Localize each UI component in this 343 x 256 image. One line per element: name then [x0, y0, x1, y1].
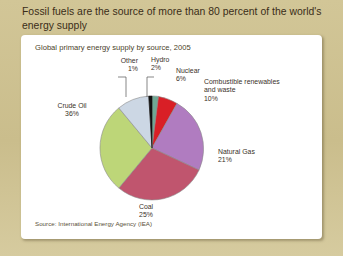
pie-label-other: Other 1% — [98, 57, 138, 74]
figure-root: Fossil fuels are the source of more than… — [0, 0, 343, 256]
pie-label-combustible-renewables: Combustible renewables and waste 10% — [204, 78, 290, 103]
pie-label-crude-oil: Crude Oil 36% — [43, 102, 101, 119]
chart-card: Global primary energy supply by source, … — [21, 35, 322, 239]
figure-heading: Fossil fuels are the source of more than… — [22, 5, 327, 32]
chart-source: Source: International Energy Agency (IEA… — [35, 220, 152, 227]
leader-line-hydro — [147, 77, 154, 97]
pie-label-natural-gas: Natural Gas 21% — [218, 148, 288, 165]
leader-line-other — [118, 77, 126, 97]
pie-chart-plot: Other 1% Hydro 2% Nuclear 6% Combustible… — [21, 35, 322, 239]
pie-label-coal: Coal 25% — [119, 203, 173, 220]
leader-lines — [118, 77, 154, 97]
pie-slices — [100, 96, 204, 200]
